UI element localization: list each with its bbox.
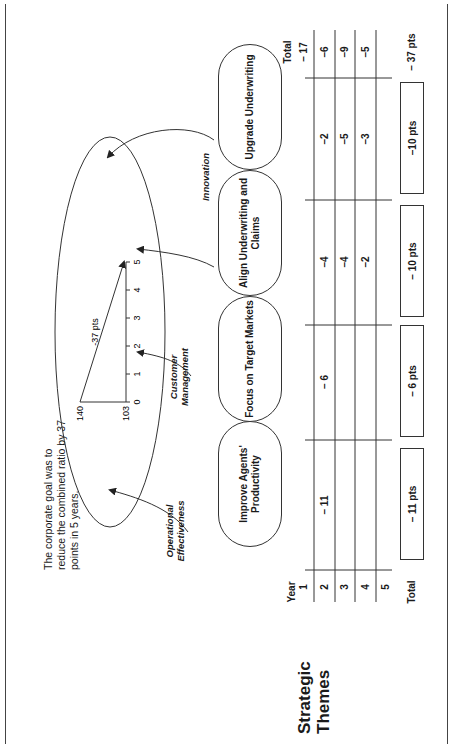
mini-start-value: 140	[75, 406, 85, 421]
theme-label-customer: Customer Management	[168, 342, 190, 412]
objective-total-box: – 11 pts	[400, 448, 424, 560]
mini-end-value: 103	[121, 406, 131, 421]
arrow-upgrade	[108, 130, 214, 157]
objective-total-box: –10 pts	[400, 82, 424, 194]
mini-x-tick-label: 1	[132, 371, 142, 376]
theme-label-innovation: Innovation	[200, 142, 211, 212]
year-label: 2	[319, 547, 330, 627]
mini-x-tick-label: 5	[132, 259, 142, 264]
mini-x-tick-label: 4	[132, 287, 142, 292]
table-cell: –5	[339, 99, 350, 179]
year-label: 4	[360, 547, 371, 627]
objective-upgrade-underwriting: Upgrade Underwriting	[218, 44, 282, 170]
grand-total: – 37 pts	[406, 12, 417, 92]
table-cell: –2	[360, 222, 371, 302]
objective-focus-markets: Focus on Target Markets	[218, 296, 282, 422]
year-header: Year	[286, 552, 297, 632]
objective-total-box: – 6 pts	[400, 325, 424, 437]
table-cell: –4	[339, 222, 350, 302]
table-cell: –2	[319, 99, 330, 179]
row-total: –5	[360, 12, 371, 92]
diagram-canvas: Strategic Themes The corporate goal was …	[0, 0, 454, 752]
mini-x-tick-label: 3	[132, 315, 142, 320]
objective-improve-agents: Improve Agents' Productivity	[218, 421, 282, 547]
year-label: 5	[380, 547, 391, 627]
mini-x-tick-label: 2	[132, 343, 142, 348]
objective-align-underwriting: Align Underwriting and Claims	[218, 170, 282, 296]
table-cell: – 11	[319, 465, 330, 545]
mini-change-label: -37 pts	[90, 318, 100, 346]
year-label: 1	[298, 547, 309, 627]
total-column-header: Total	[282, 12, 293, 92]
row-total: –6	[319, 12, 330, 92]
objective-total-box: – 10 pts	[400, 205, 424, 317]
row-total: – 17	[298, 12, 309, 92]
table-cell: – 6	[319, 342, 330, 422]
table-cell: –3	[360, 99, 371, 179]
goal-mini-chart: 012345140103-37 pts	[75, 259, 142, 421]
year-label: 3	[339, 547, 350, 627]
row-total: –9	[339, 12, 350, 92]
theme-label-operational: Operational Effectiveness	[164, 496, 186, 566]
mini-trend-line	[80, 262, 124, 402]
goal-ellipse	[55, 137, 165, 527]
total-row-label: Total	[406, 552, 417, 632]
arrow-align	[138, 249, 214, 267]
mini-x-tick-label: 0	[132, 399, 142, 404]
table-cell: –4	[319, 222, 330, 302]
